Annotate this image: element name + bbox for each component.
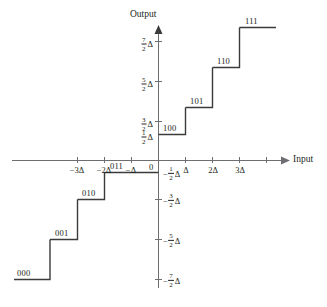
y-tick-label-minus-7-2-delta: − 7 2 Δ — [163, 270, 180, 288]
staircase-path-group — [14, 28, 276, 280]
numerator: 5 — [141, 76, 147, 84]
y-tick-label-7-2-delta: 7 2 Δ — [141, 31, 153, 52]
y-tick-sign: − — [163, 196, 168, 205]
fraction: 7 2 — [168, 273, 174, 289]
denominator: 2 — [141, 44, 147, 53]
numerator: 3 — [168, 193, 174, 201]
y-tick-label-5-2-delta: 5 2 Δ — [141, 71, 153, 92]
quantizer-transfer-chart: Output Input −3Δ −2Δ −Δ 0 Δ 2Δ 3Δ 7 2 Δ … — [0, 0, 327, 307]
denominator: 2 — [168, 200, 174, 209]
fraction: 5 2 — [168, 233, 174, 249]
x-axis-arrowhead — [281, 157, 290, 165]
numerator: 3 — [141, 116, 147, 124]
denominator: 2 — [168, 240, 174, 249]
axes-group — [12, 25, 290, 288]
numerator: 1 — [141, 129, 147, 137]
y-axis-arrowhead — [155, 25, 163, 34]
y-tick-sign: − — [163, 169, 168, 178]
numerator: 5 — [168, 233, 174, 241]
x-tick-label-zero: 0 — [149, 163, 153, 172]
y-axis-title: Output — [130, 10, 156, 20]
unit-delta: Δ — [148, 40, 153, 49]
unit-delta: Δ — [148, 80, 153, 89]
unit-delta: Δ — [175, 196, 180, 205]
unit-delta: Δ — [175, 169, 180, 178]
numerator: 7 — [141, 36, 147, 44]
step-label-001: 001 — [55, 229, 68, 238]
step-label-010: 010 — [82, 189, 95, 198]
unit-delta: Δ — [148, 133, 153, 142]
denominator: 2 — [141, 84, 147, 93]
numerator: 1 — [168, 166, 174, 174]
y-tick-sign: − — [163, 236, 168, 245]
unit-delta: Δ — [175, 236, 180, 245]
y-tick-label-minus-5-2-delta: − 5 2 Δ — [163, 230, 180, 248]
numerator: 7 — [168, 273, 174, 281]
x-tick-label-delta: Δ — [183, 166, 188, 175]
x-tick-label-2delta: 2Δ — [208, 166, 218, 175]
y-tick-sign: − — [163, 276, 168, 285]
step-label-000: 000 — [17, 269, 30, 278]
step-label-101: 101 — [190, 97, 203, 106]
x-tick-label-minus-3delta: −3Δ — [70, 166, 85, 175]
x-tick-label-3delta: 3Δ — [235, 166, 245, 175]
step-label-011: 011 — [110, 162, 123, 171]
fraction: 5 2 — [141, 76, 147, 92]
fraction: 3 2 — [168, 193, 174, 209]
x-tick-label-minus-delta: −Δ — [126, 166, 136, 175]
unit-delta: Δ — [175, 276, 180, 285]
step-label-111: 111 — [245, 17, 258, 26]
denominator: 2 — [168, 280, 174, 289]
y-tick-label-minus-1-2-delta: − 1 2 Δ — [163, 163, 180, 181]
step-label-110: 110 — [217, 57, 230, 66]
denominator: 2 — [168, 173, 174, 182]
step-label-100: 100 — [163, 124, 176, 133]
fraction: 7 2 — [141, 36, 147, 52]
x-axis-title: Input — [293, 155, 313, 165]
y-tick-label-1-2-delta: 1 2 Δ — [141, 124, 153, 145]
y-tick-label-minus-3-2-delta: − 3 2 Δ — [163, 190, 180, 208]
fraction: 1 2 — [168, 166, 174, 182]
denominator: 2 — [141, 137, 147, 146]
fraction: 1 2 — [141, 129, 147, 145]
chart-canvas — [0, 0, 327, 307]
